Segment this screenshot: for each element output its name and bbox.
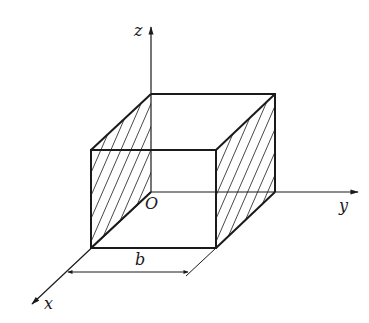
z-axis-label: z [134,23,142,39]
box-edges [91,94,275,248]
x-axis-label: x [44,296,53,312]
box-diagram [0,0,369,323]
dimension-label: b [135,252,145,268]
origin-label: O [145,196,158,212]
y-axis-label: y [339,198,348,214]
diagram-canvas: z y x O b [0,0,369,323]
